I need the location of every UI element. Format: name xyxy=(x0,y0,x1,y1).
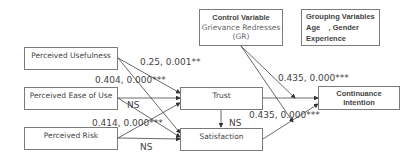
perceived-risk-label: Perceived Risk xyxy=(25,128,117,140)
sat-ci-path-label: 0.435, 0.000*** xyxy=(249,110,320,120)
control-variable-line2: (GR) xyxy=(200,32,282,42)
trust-sat-ns-label: NS xyxy=(229,118,241,128)
continuance-intention-line1: Continuance xyxy=(319,87,399,98)
control-variable-line1: Grievance Redresses xyxy=(200,23,282,33)
perceived-usefulness-label: Perceived Usefulness xyxy=(25,48,117,60)
trust-ci-path-label: 0.435, 0.000*** xyxy=(278,73,349,83)
satisfaction-box: Satisfaction xyxy=(180,128,263,151)
grouping-variables-title: Grouping Variables xyxy=(306,10,379,22)
pr-ns-label: NS xyxy=(140,142,152,152)
peou-ns-label: NS xyxy=(127,100,139,110)
perceived-risk-box: Perceived Risk xyxy=(24,127,118,150)
control-variable-box: Control Variable Grievance Redresses (GR… xyxy=(199,9,283,46)
satisfaction-label: Satisfaction xyxy=(181,129,262,141)
perceived-ease-of-use-box: Perceived Ease of Use xyxy=(24,87,118,110)
grouping-variables-box: Grouping Variables Age , Gender Experien… xyxy=(301,9,380,46)
perceived-usefulness-box: Perceived Usefulness xyxy=(24,47,118,70)
pu-path-label: 0.25, 0.001** xyxy=(140,57,201,67)
continuance-intention-box: Continuance Intention xyxy=(318,86,400,110)
continuance-intention-line2: Intention xyxy=(319,98,399,107)
control-variable-title: Control Variable xyxy=(200,10,282,23)
perceived-ease-of-use-label: Perceived Ease of Use xyxy=(25,88,117,100)
trust-label: Trust xyxy=(181,88,262,100)
peou-path-label: 0.404, 0.000*** xyxy=(95,75,166,85)
trust-box: Trust xyxy=(180,87,263,110)
grouping-variables-line1: Age , Gender xyxy=(306,22,379,33)
grouping-variables-line2: Experience xyxy=(306,33,379,44)
pr-path-label: 0.414, 0.000*** xyxy=(92,118,163,128)
